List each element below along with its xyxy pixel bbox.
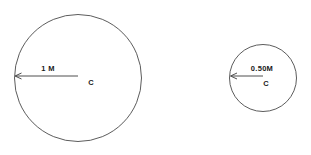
small-center-label: C [263,79,269,88]
diagram-canvas: 1 M C 0.50M C [0,0,311,155]
large-circle-outline [15,15,142,142]
large-center-label: C [88,78,94,87]
large-radius-label: 1 M [41,64,54,73]
small-circle-group [230,45,297,112]
circle-diagram: 1 M C 0.50M C [0,0,311,155]
small-radius-label: 0.50M [251,64,273,73]
small-circle-outline [230,45,297,112]
large-circle-group [15,15,142,142]
